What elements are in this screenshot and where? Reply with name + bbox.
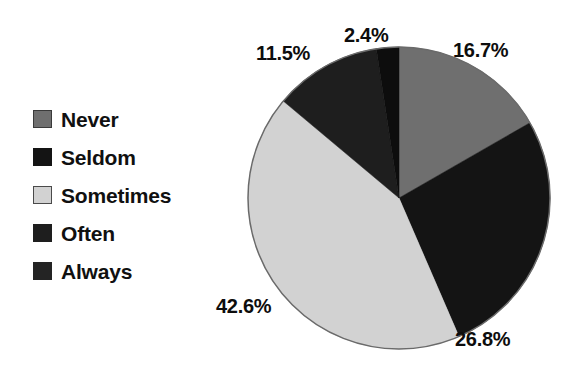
pie-svg <box>243 42 555 354</box>
data-label-always: 2.4% <box>344 25 388 45</box>
chart-legend: Never Seldom Sometimes Often Always <box>33 100 203 290</box>
legend-item-often: Often <box>33 214 203 252</box>
legend-item-seldom: Seldom <box>33 138 203 176</box>
data-label-seldom: 26.8% <box>455 329 510 349</box>
legend-swatch-often <box>33 224 52 242</box>
pie-slice-group <box>248 47 550 349</box>
legend-item-sometimes: Sometimes <box>33 176 203 214</box>
legend-swatch-always <box>33 262 52 280</box>
legend-swatch-sometimes <box>33 186 52 204</box>
legend-swatch-never <box>33 110 52 128</box>
legend-swatch-seldom <box>33 148 52 166</box>
data-label-sometimes: 42.6% <box>216 296 271 316</box>
legend-label-always: Always <box>61 261 132 282</box>
legend-item-never: Never <box>33 100 203 138</box>
legend-label-sometimes: Sometimes <box>61 185 171 206</box>
legend-item-always: Always <box>33 252 203 290</box>
pie-chart-figure: Never Seldom Sometimes Often Always 2.4%… <box>0 0 583 370</box>
pie-plot-area <box>243 42 555 354</box>
legend-label-seldom: Seldom <box>61 147 136 168</box>
data-label-never: 16.7% <box>453 40 508 60</box>
data-label-often: 11.5% <box>256 43 310 63</box>
legend-label-never: Never <box>61 109 118 130</box>
legend-label-often: Often <box>61 223 115 244</box>
